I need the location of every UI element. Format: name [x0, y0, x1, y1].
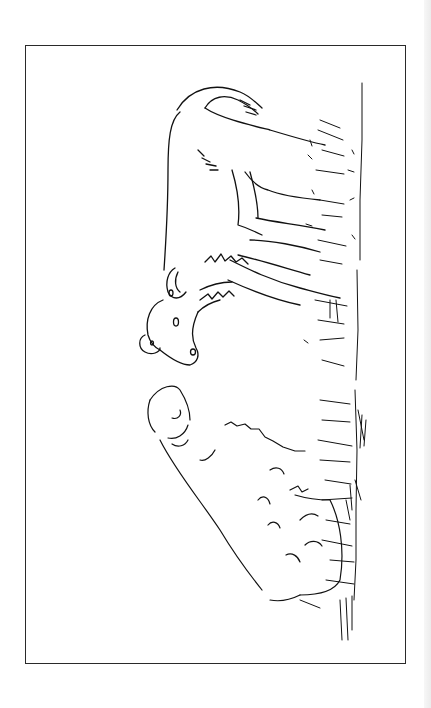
grass — [300, 83, 366, 640]
sheep-figure — [148, 386, 342, 601]
calf-figure — [140, 87, 340, 365]
illustration — [0, 0, 431, 708]
